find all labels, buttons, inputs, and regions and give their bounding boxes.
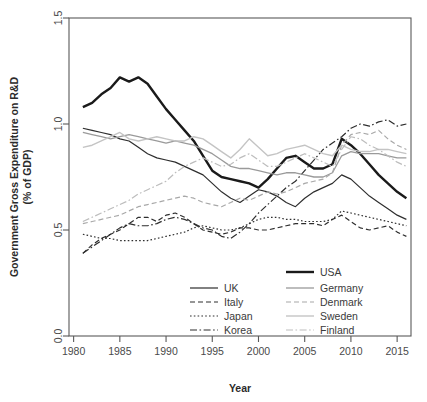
legend-label-korea: Korea <box>224 324 252 336</box>
x-axis-title: Year <box>229 382 251 394</box>
series-line-uk <box>83 128 407 219</box>
x-tick-label: 2015 <box>385 345 409 357</box>
series-line-japan <box>83 211 407 241</box>
y-tick-label: 1.0 <box>52 117 64 132</box>
legend-label-usa: USA <box>320 266 342 278</box>
y-tick-label: 0.5 <box>52 223 64 238</box>
chart-legend: USAUKItalyJapanKoreaGermanyDenmarkSweden… <box>190 266 364 336</box>
legend-label-uk: UK <box>224 282 239 294</box>
y-tick-label: 1.5 <box>52 11 64 26</box>
rnd-expenditure-line-chart: 0.00.51.01.5 198019851990199520002005201… <box>0 0 427 402</box>
x-tick-label: 2010 <box>339 345 363 357</box>
legend-label-sweden: Sweden <box>320 310 358 322</box>
series-line-italy <box>83 213 407 253</box>
x-tick-label: 1995 <box>201 345 225 357</box>
series-line-finland <box>83 137 407 222</box>
legend-label-japan: Japan <box>224 310 253 322</box>
data-series-group <box>83 77 407 253</box>
y-axis-title-line2: (% of GDP) <box>21 150 33 205</box>
y-tick-label: 0.0 <box>52 329 64 344</box>
legend-label-finland: Finland <box>320 324 355 336</box>
x-tick-label: 1990 <box>154 345 178 357</box>
series-line-sweden <box>83 132 407 157</box>
x-tick-label: 1980 <box>62 345 86 357</box>
chart-container: 0.00.51.01.5 198019851990199520002005201… <box>0 0 427 402</box>
x-tick-label: 2005 <box>293 345 317 357</box>
y-axis: 0.00.51.01.5 <box>52 11 69 344</box>
x-tick-label: 1985 <box>108 345 132 357</box>
legend-label-denmark: Denmark <box>320 296 363 308</box>
x-tick-label: 2000 <box>247 345 271 357</box>
legend-label-germany: Germany <box>320 282 364 294</box>
legend-label-italy: Italy <box>224 296 244 308</box>
x-axis: 19801985199019952000200520102015 <box>62 336 409 357</box>
y-axis-title-line1: Government Gross Expenditure on R&D <box>8 77 20 278</box>
